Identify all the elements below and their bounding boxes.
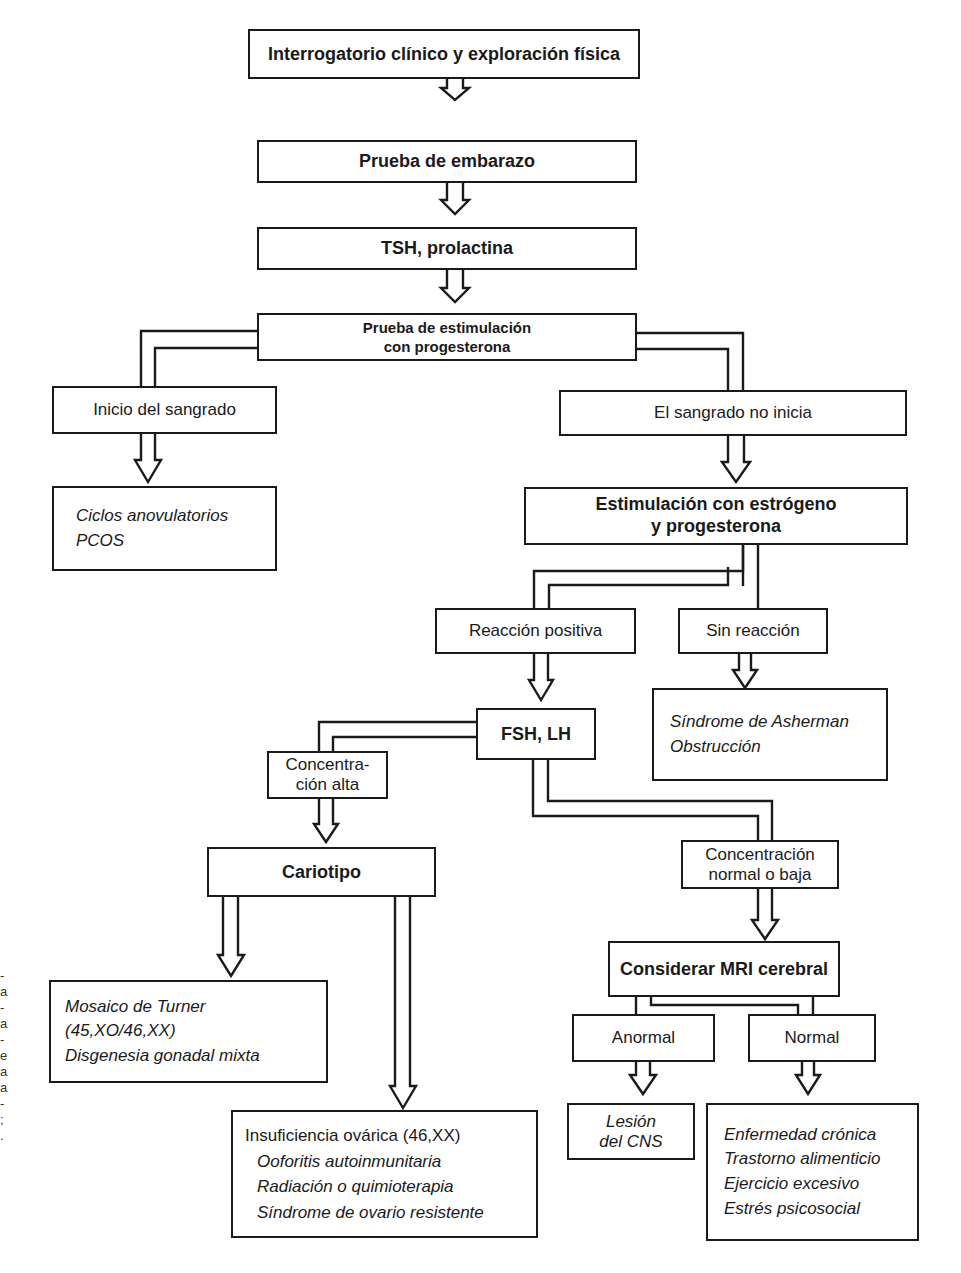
arrow-karyotype-to-ovarian xyxy=(390,896,416,1108)
arrow-pregnancy-to-tsh xyxy=(441,183,469,214)
edge-fragment: - xyxy=(0,1000,7,1016)
arrow-high-to-karyotype xyxy=(314,799,338,842)
node-ovarian-failure: Insuficiencia ovárica (46,XX) Ooforitis … xyxy=(231,1110,538,1238)
node-normal-low-concentration: Concentración normal o baja xyxy=(681,840,839,889)
arrow-karyotype-to-turner xyxy=(218,896,244,976)
node-item: Ejercicio excesivo xyxy=(724,1172,859,1197)
node-label: Sin reacción xyxy=(706,620,800,641)
arrow-tsh-to-progesterone xyxy=(441,270,469,302)
node-label: FSH, LH xyxy=(501,723,571,746)
node-positive-reaction: Reacción positiva xyxy=(435,608,636,654)
node-label: Considerar MRI cerebral xyxy=(620,958,828,981)
edge-fragment: e xyxy=(0,1048,7,1064)
node-item: Enfermedad crónica xyxy=(724,1123,876,1148)
node-item: Trastorno alimenticio xyxy=(724,1147,881,1172)
edge-fragment: - xyxy=(0,968,7,984)
edge-fragment: ; xyxy=(0,1112,7,1128)
node-functional-causes: Enfermedad crónica Trastorno alimenticio… xyxy=(706,1103,919,1241)
node-bleeding-not: El sangrado no inicia xyxy=(559,390,907,436)
node-turner: Mosaico de Turner (45,XO/46,XX) Disgenes… xyxy=(49,980,328,1083)
node-abnormal: Anormal xyxy=(572,1014,715,1062)
arrow-abnormal-to-lesion xyxy=(630,1061,656,1094)
node-label-line2: del CNS xyxy=(599,1132,662,1152)
node-karyotype: Cariotipo xyxy=(207,847,436,897)
node-label-line1: Concentración xyxy=(705,845,815,865)
node-label: Reacción positiva xyxy=(469,620,602,641)
node-item: (45,XO/46,XX) xyxy=(65,1019,176,1044)
node-cns-lesion: Lesión del CNS xyxy=(567,1103,695,1160)
node-item: Síndrome de ovario resistente xyxy=(245,1200,484,1226)
node-label: Normal xyxy=(785,1027,840,1048)
arrow-normal-low-to-mri xyxy=(752,889,778,939)
node-bleeding-starts: Inicio del sangrado xyxy=(52,386,277,434)
pipe-progesterone-to-bleeding-not xyxy=(636,333,743,390)
node-label-line2: con progesterona xyxy=(384,337,511,357)
edge-fragment: - xyxy=(0,1096,7,1112)
pipe-progesterone-to-bleeding-starts xyxy=(141,331,258,386)
node-label-line2: normal o baja xyxy=(708,865,811,885)
arrow-no-reaction-to-asherman xyxy=(733,653,757,688)
pipe-estrogen-to-positive xyxy=(534,544,743,609)
node-high-concentration: Concentra- ción alta xyxy=(267,751,388,799)
edge-fragment: . xyxy=(0,1128,7,1144)
node-fsh-lh: FSH, LH xyxy=(476,708,596,760)
node-item: Ooforitis autoinmunitaria xyxy=(245,1149,441,1175)
arrow-normal-to-functional xyxy=(796,1061,820,1094)
node-label-line1: Prueba de estimulación xyxy=(363,318,531,338)
arrow-bleeding-starts-to-anovulatory xyxy=(135,433,161,482)
node-label: Anormal xyxy=(612,1027,675,1048)
pipe-fsh-to-high xyxy=(319,722,476,752)
node-item: PCOS xyxy=(76,529,124,554)
node-label: El sangrado no inicia xyxy=(654,402,812,423)
pipe-mri-to-abnormal xyxy=(636,996,798,1014)
node-history: Interrogatorio clínico y exploración fís… xyxy=(248,29,640,79)
node-estrogen-progesterone: Estimulación con estrógeno y progesteron… xyxy=(524,487,908,545)
node-progesterone-test: Prueba de estimulación con progesterona xyxy=(257,313,637,361)
node-item: Radiación o quimioterapia xyxy=(245,1174,454,1200)
node-item: Síndrome de Asherman xyxy=(670,710,849,735)
node-label: Prueba de embarazo xyxy=(359,150,535,173)
node-label-line1: Estimulación con estrógeno xyxy=(595,494,836,516)
node-heading: Insuficiencia ovárica (46,XX) xyxy=(245,1123,460,1149)
node-label-line2: ción alta xyxy=(296,775,359,795)
node-anovulatory: Ciclos anovulatorios PCOS xyxy=(52,486,277,571)
node-no-reaction: Sin reacción xyxy=(678,608,828,654)
node-label-line1: Lesión xyxy=(606,1112,656,1132)
edge-fragment: a xyxy=(0,1080,7,1096)
edge-fragment: a xyxy=(0,1016,7,1032)
node-item: Estrés psicosocial xyxy=(724,1197,860,1222)
node-label-line1: Concentra- xyxy=(285,755,369,775)
node-label: TSH, prolactina xyxy=(381,237,513,260)
node-label-line2: y progesterona xyxy=(651,516,781,538)
arrow-bleeding-not-to-estrogen xyxy=(722,435,750,482)
node-item: Disgenesia gonadal mixta xyxy=(65,1044,260,1069)
edge-fragment: - xyxy=(0,1032,7,1048)
pipe-estrogen-to-no-reaction xyxy=(743,544,758,609)
node-normal: Normal xyxy=(748,1014,876,1062)
node-asherman: Síndrome de Asherman Obstrucción xyxy=(652,688,888,781)
node-tsh-prolactin: TSH, prolactina xyxy=(257,227,637,270)
node-label: Interrogatorio clínico y exploración fís… xyxy=(268,43,620,66)
node-label: Cariotipo xyxy=(282,861,361,884)
arrow-positive-to-fsh xyxy=(529,653,553,700)
edge-fragment: a xyxy=(0,1064,7,1080)
node-item: Mosaico de Turner xyxy=(65,995,205,1020)
node-label: Inicio del sangrado xyxy=(93,399,236,420)
node-item: Ciclos anovulatorios xyxy=(76,504,228,529)
node-mri: Considerar MRI cerebral xyxy=(608,941,840,997)
node-pregnancy-test: Prueba de embarazo xyxy=(257,140,637,183)
node-item: Obstrucción xyxy=(670,735,761,760)
edge-text-fragments: - a - a - e a a - ; . xyxy=(0,968,7,1144)
edge-fragment: a xyxy=(0,984,7,1000)
